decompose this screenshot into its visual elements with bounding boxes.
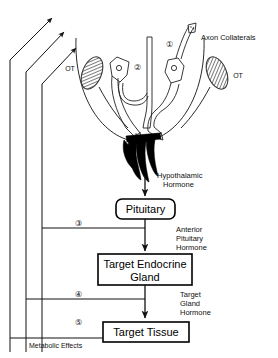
target-endocrine-gland-label-line1: Target Endocrine: [103, 258, 186, 270]
target-gland-hormone-line3: Hormone: [180, 308, 211, 317]
target-tissue-box-label: Target Tissue: [113, 326, 178, 338]
anterior-pituitary-hormone-line3: Hormone: [176, 243, 207, 252]
target-gland-hormone-line1: Target: [180, 290, 202, 299]
optic-tract-left-label: OT: [65, 65, 75, 72]
target-gland-hormone-line2: Gland: [180, 299, 200, 308]
target-endocrine-gland-label-line2: Gland: [130, 271, 159, 283]
metabolic-effects-label: Metabolic Effects: [29, 342, 83, 349]
axon-collaterals-label: Axon Collaterals: [201, 33, 256, 42]
feedback-arrow-4: [26, 32, 64, 352]
anterior-pituitary-hormone-line1: Anterior: [176, 225, 203, 234]
feedback-arrow-5: [10, 18, 52, 352]
feedback-loop-3: ③: [42, 219, 145, 228]
neuroendocrine-feedback-diagram: OT OT: [0, 0, 278, 358]
neuron-marker-2: ②: [134, 63, 141, 72]
optic-tract-right-label: OT: [233, 72, 243, 79]
feedback-arrow-3: [42, 48, 76, 352]
hypothalamic-hormone-label-line2: Hormone: [163, 180, 194, 189]
feedback-loop-3-marker: ③: [75, 219, 82, 228]
hypothalamus-outline: [76, 38, 204, 142]
feedback-loop-5-marker: ⑤: [75, 318, 82, 327]
median-eminence-tract: [123, 133, 161, 182]
feedback-loop-4-marker: ④: [75, 290, 82, 299]
hypothalamic-hormone-label-line1: Hypothalamic: [157, 171, 203, 180]
diagram-canvas: OT OT: [0, 0, 278, 358]
third-ventricle: [143, 37, 152, 128]
pituitary-box-label: Pituitary: [126, 203, 166, 215]
neuron-marker-1: ①: [166, 40, 173, 49]
neuron-cell-body-2: [110, 57, 148, 139]
optic-tract-right: [181, 54, 232, 128]
anterior-pituitary-hormone-line2: Pituitary: [176, 234, 203, 243]
feedback-loop-4: ④: [26, 290, 145, 299]
feedback-loop-5: ⑤: [10, 318, 103, 338]
